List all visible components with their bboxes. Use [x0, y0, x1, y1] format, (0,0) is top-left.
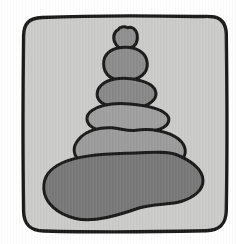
cairn-illustration — [0, 0, 238, 244]
stone-top-tiny — [114, 27, 138, 49]
stone-2-round — [104, 47, 148, 81]
illustration-canvas — [0, 0, 238, 244]
